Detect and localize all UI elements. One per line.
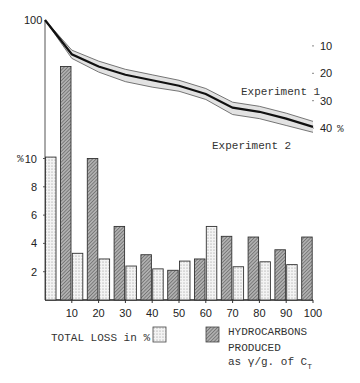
bar-total-loss: [260, 262, 271, 300]
right-tick-label: 40: [320, 122, 332, 134]
left-unit-label: %: [17, 153, 24, 165]
y-tick-label: 10: [25, 153, 37, 165]
x-tick-label: 20: [92, 307, 104, 319]
y-tick-label: 6: [31, 209, 37, 221]
x-tick-label: 40: [146, 307, 158, 319]
right-tick-label: 20: [320, 67, 332, 79]
legend-hatched-swatch: [206, 327, 219, 342]
bar-hydrocarbons: [141, 255, 152, 300]
bar-total-loss: [72, 253, 83, 300]
x-tick-label: 70: [226, 307, 238, 319]
legend-hydrocarbons-line1: HYDROCARBONS: [228, 326, 308, 338]
experiment-2-label: Experiment 2: [212, 140, 291, 152]
x-tick-label: 50: [173, 307, 185, 319]
right-tick-label: 30: [320, 95, 332, 107]
legend-dotted-swatch: [153, 327, 166, 342]
right-tick-label: 10: [320, 40, 332, 52]
bars: [46, 67, 313, 300]
bar-total-loss: [126, 266, 136, 300]
bar-hydrocarbons: [248, 237, 259, 300]
hydrocarbon-loss-chart: 246810 100 % 10203040 % 1020304050607080…: [0, 0, 360, 383]
x-tick-label: 90: [280, 307, 292, 319]
bar-total-loss: [206, 226, 217, 300]
x-tick-label: 10: [66, 307, 78, 319]
bar-hydrocarbons: [221, 236, 232, 300]
bar-total-loss: [46, 157, 57, 300]
x-tick-label: 60: [200, 307, 212, 319]
legend: TOTAL LOSS in % HYDROCARBONS PRODUCED as…: [51, 326, 312, 371]
bar-total-loss: [99, 259, 110, 300]
x-tick-label: 30: [119, 307, 131, 319]
x-tick-label: 100: [304, 307, 322, 319]
x-tick-label: 80: [253, 307, 265, 319]
x-axis-ticks: 102030405060708090100: [66, 300, 323, 319]
bar-hydrocarbons: [87, 159, 98, 301]
legend-hydrocarbons-line3: as γ/g. of CT: [228, 356, 312, 371]
loss-curve: [45, 20, 313, 132]
bar-hydrocarbons: [61, 67, 72, 300]
bar-total-loss: [287, 265, 298, 300]
y-tick-label: 8: [31, 181, 37, 193]
bar-hydrocarbons: [168, 270, 179, 300]
bar-hydrocarbons: [302, 237, 313, 300]
bar-total-loss: [153, 269, 164, 300]
top-left-100-label: 100: [24, 14, 42, 26]
bar-hydrocarbons: [114, 226, 125, 300]
bar-total-loss: [180, 261, 191, 300]
bar-hydrocarbons: [275, 250, 286, 300]
right-unit-label: %: [337, 123, 344, 135]
y-tick-label: 2: [31, 266, 37, 278]
bar-total-loss: [233, 267, 244, 300]
bar-hydrocarbons: [195, 259, 206, 300]
y-tick-label: 4: [31, 237, 37, 249]
y-axis-ticks-left: 246810: [25, 153, 46, 278]
legend-total-loss-label: TOTAL LOSS in %: [51, 332, 150, 344]
experiment-1-line: [45, 20, 313, 121]
legend-hydrocarbons-line2: PRODUCED: [228, 342, 281, 354]
experiment-1-label: Experiment 1: [241, 86, 321, 98]
